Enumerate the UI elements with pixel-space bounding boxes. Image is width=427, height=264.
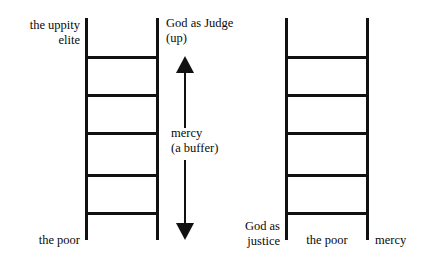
label-mercy-right: mercy bbox=[375, 233, 425, 248]
left-ladder-rung-1 bbox=[85, 56, 159, 59]
up-arrow-shaft bbox=[184, 71, 186, 128]
down-arrow-shaft bbox=[184, 160, 186, 224]
down-arrow-head-icon bbox=[176, 223, 194, 240]
left-ladder bbox=[85, 18, 159, 240]
right-ladder-rung-3 bbox=[285, 132, 369, 135]
left-ladder-rung-4 bbox=[85, 174, 159, 177]
right-ladder bbox=[285, 18, 369, 240]
left-ladder-rail-left bbox=[85, 18, 88, 240]
left-ladder-rung-5 bbox=[85, 212, 159, 215]
right-ladder-rail-left bbox=[285, 18, 288, 240]
label-the-poor-left: the poor bbox=[8, 233, 80, 248]
label-mercy-buffer: mercy (a buffer) bbox=[171, 126, 261, 155]
left-ladder-rung-3 bbox=[85, 132, 159, 135]
right-ladder-rung-4 bbox=[285, 174, 369, 177]
label-god-as-judge: God as Judge (up) bbox=[166, 16, 271, 45]
down-arrow-icon bbox=[171, 160, 199, 240]
left-ladder-rail-right bbox=[156, 18, 159, 240]
up-arrow-icon bbox=[171, 56, 199, 128]
label-god-as-justice: God as justice bbox=[222, 219, 280, 248]
right-ladder-rung-2 bbox=[285, 94, 369, 97]
label-the-poor-right: the poor bbox=[289, 233, 365, 248]
right-ladder-rail-right bbox=[366, 18, 369, 240]
diagram-canvas: the uppity elite God as Judge (up) mercy… bbox=[0, 0, 427, 264]
right-ladder-rung-1 bbox=[285, 56, 369, 59]
right-ladder-rung-5 bbox=[285, 212, 369, 215]
left-ladder-rung-2 bbox=[85, 94, 159, 97]
label-uppity-elite: the uppity elite bbox=[8, 18, 80, 47]
